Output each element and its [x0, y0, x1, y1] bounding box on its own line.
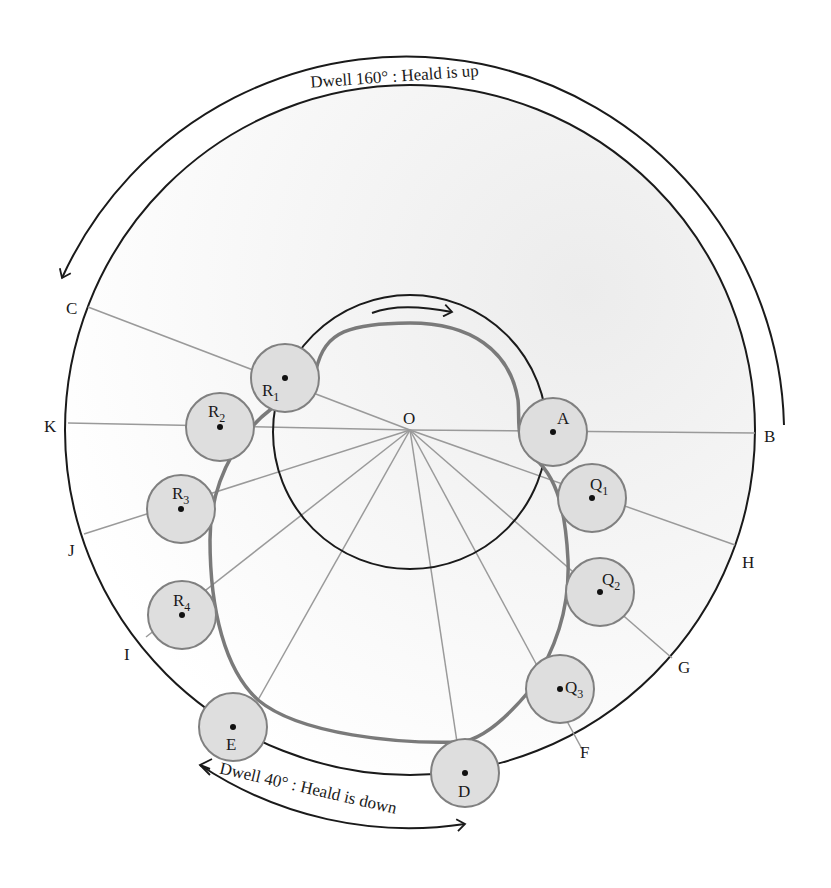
roller-label-E: E: [226, 735, 236, 754]
point-label-I: I: [124, 645, 130, 664]
cam-heald-diagram: R1 R2 R3 R4 E D Q3 Q2 Q1 A O C K J I B H…: [0, 0, 831, 888]
center-label-O: O: [403, 409, 415, 428]
roller-label-A: A: [557, 409, 570, 428]
roller-label-D: D: [458, 782, 470, 801]
point-label-K: K: [44, 417, 57, 436]
point-label-H: H: [742, 553, 754, 572]
point-label-C: C: [66, 299, 77, 318]
point-label-G: G: [678, 658, 690, 677]
point-label-J: J: [68, 541, 75, 560]
point-label-F: F: [580, 743, 589, 762]
point-label-B: B: [764, 427, 775, 446]
